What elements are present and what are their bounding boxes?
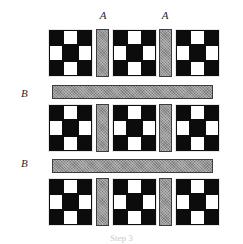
checker-cell-light — [113, 194, 127, 209]
checker-cell-dark — [113, 105, 127, 120]
checkerboard-r2-c2 — [112, 104, 157, 152]
checkerboard-r1-c1 — [48, 29, 93, 77]
checker-cell-dark — [176, 105, 190, 120]
checker-cell-dark — [49, 61, 63, 76]
checker-cell-dark — [113, 179, 127, 194]
vertical-bar-a-r2-2 — [159, 104, 172, 152]
checker-cell-light — [142, 120, 156, 135]
checker-cell-light — [63, 30, 77, 45]
checker-cell-dark — [49, 210, 63, 225]
checker-cell-light — [176, 120, 190, 135]
checker-cell-light — [78, 45, 92, 60]
checker-cell-light — [205, 194, 219, 209]
checkerboard-r2-c3 — [175, 104, 220, 152]
checker-cell-light — [49, 120, 63, 135]
checker-cell-light — [49, 194, 63, 209]
checker-cell-dark — [205, 210, 219, 225]
label-b-1: B — [21, 88, 28, 99]
vertical-bar-a-r3-2 — [159, 178, 172, 226]
checker-cell-dark — [78, 179, 92, 194]
label-a-2: A — [155, 10, 175, 21]
checker-cell-dark — [78, 61, 92, 76]
checker-cell-dark — [63, 194, 77, 209]
checker-cell-dark — [190, 45, 204, 60]
checker-cell-light — [190, 105, 204, 120]
checker-cell-dark — [205, 105, 219, 120]
checker-cell-dark — [49, 136, 63, 151]
checker-cell-dark — [63, 45, 77, 60]
checker-cell-dark — [176, 30, 190, 45]
checker-cell-light — [113, 45, 127, 60]
checker-cell-light — [176, 194, 190, 209]
checkerboard-r3-c2 — [112, 178, 157, 226]
checker-cell-dark — [127, 194, 141, 209]
horizontal-bar-b-1 — [52, 85, 213, 99]
checker-cell-light — [127, 30, 141, 45]
checker-cell-light — [127, 179, 141, 194]
checker-cell-light — [142, 194, 156, 209]
checker-cell-dark — [49, 179, 63, 194]
checker-cell-light — [190, 136, 204, 151]
checker-cell-dark — [176, 61, 190, 76]
checker-cell-dark — [176, 179, 190, 194]
checker-cell-dark — [190, 120, 204, 135]
checker-cell-light — [127, 105, 141, 120]
checker-cell-dark — [205, 179, 219, 194]
checker-cell-dark — [113, 210, 127, 225]
checker-cell-light — [205, 120, 219, 135]
checker-cell-light — [63, 210, 77, 225]
figure-step-3: AABBStep 3 — [0, 0, 243, 244]
label-a-1: A — [93, 10, 113, 21]
checkerboard-r3-c1 — [48, 178, 93, 226]
checker-cell-dark — [113, 136, 127, 151]
checker-cell-dark — [176, 136, 190, 151]
checker-cell-dark — [142, 105, 156, 120]
checker-cell-dark — [78, 105, 92, 120]
checker-cell-dark — [113, 61, 127, 76]
checker-cell-dark — [78, 210, 92, 225]
checker-cell-dark — [49, 30, 63, 45]
checker-cell-light — [127, 210, 141, 225]
checkerboard-r1-c3 — [175, 29, 220, 77]
checker-cell-light — [176, 45, 190, 60]
checker-cell-dark — [127, 120, 141, 135]
checker-cell-light — [63, 105, 77, 120]
checker-cell-light — [63, 61, 77, 76]
checker-cell-dark — [205, 136, 219, 151]
checker-cell-light — [205, 45, 219, 60]
checkerboard-r1-c2 — [112, 29, 157, 77]
label-b-2: B — [21, 158, 28, 169]
checker-cell-light — [190, 210, 204, 225]
checker-cell-dark — [205, 30, 219, 45]
checker-cell-dark — [142, 210, 156, 225]
checker-cell-dark — [49, 105, 63, 120]
checker-cell-light — [63, 136, 77, 151]
horizontal-bar-b-2 — [52, 159, 213, 173]
checker-cell-light — [49, 45, 63, 60]
checker-cell-light — [142, 45, 156, 60]
checker-cell-dark — [63, 120, 77, 135]
checker-cell-dark — [142, 30, 156, 45]
figure-caption: Step 3 — [0, 234, 243, 243]
checker-cell-dark — [205, 61, 219, 76]
checker-cell-dark — [142, 136, 156, 151]
checker-cell-light — [78, 194, 92, 209]
vertical-bar-a-r1-2 — [159, 29, 172, 77]
checkerboard-r2-c1 — [48, 104, 93, 152]
checker-cell-dark — [142, 179, 156, 194]
vertical-bar-a-r3-1 — [96, 178, 109, 226]
checker-cell-light — [190, 30, 204, 45]
vertical-bar-a-r2-1 — [96, 104, 109, 152]
checker-cell-light — [127, 136, 141, 151]
checker-cell-light — [127, 61, 141, 76]
checker-cell-light — [63, 179, 77, 194]
checkerboard-r3-c3 — [175, 178, 220, 226]
checker-cell-light — [113, 120, 127, 135]
checker-cell-dark — [127, 45, 141, 60]
checker-cell-dark — [176, 210, 190, 225]
checker-cell-dark — [113, 30, 127, 45]
checker-cell-dark — [78, 136, 92, 151]
checker-cell-light — [190, 179, 204, 194]
checker-cell-light — [190, 61, 204, 76]
checker-cell-dark — [190, 194, 204, 209]
